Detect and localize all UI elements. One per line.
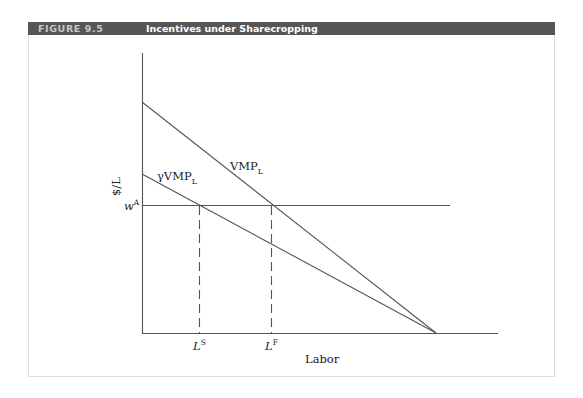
- gamma-vmp-label: γVMPL: [157, 169, 198, 186]
- ls-label: LS: [192, 338, 206, 353]
- vmp-line: [142, 102, 436, 333]
- chart-plot: VMPL γVMPL wA $/L LS LF Labor: [0, 0, 583, 398]
- y-axis-label: $/L: [109, 177, 123, 196]
- wage-label: wA: [124, 198, 140, 213]
- lf-label: LF: [264, 338, 278, 353]
- vmp-label: VMPL: [229, 159, 264, 176]
- gamma-vmp-line: [142, 174, 436, 333]
- x-axis-label: Labor: [305, 352, 340, 366]
